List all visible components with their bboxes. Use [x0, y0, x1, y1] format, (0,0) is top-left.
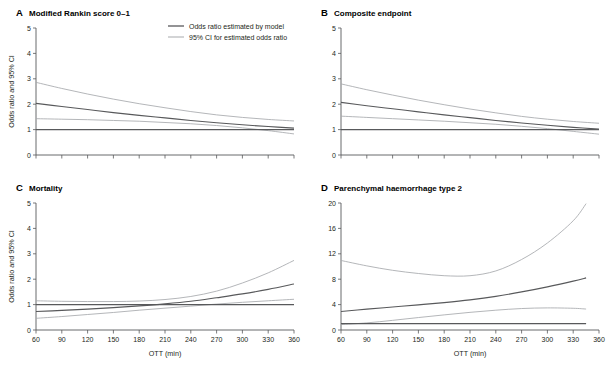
x-tick-label: 240: [490, 336, 502, 343]
y-tick-label: 4: [27, 225, 31, 232]
curve-ci: [341, 116, 599, 134]
x-tick-label: 270: [516, 336, 528, 343]
y-tick-label: 0: [332, 152, 336, 159]
panel-c: CMortality012345609012015018021024027030…: [7, 182, 300, 358]
y-tick-label: 5: [27, 25, 31, 32]
x-tick-label: 300: [237, 336, 249, 343]
panel-b: BComposite endpoint012345: [321, 7, 599, 159]
y-tick-label: 0: [27, 327, 31, 334]
panel-a: AModified Rankin score 0–1012345Odds rat…: [7, 7, 294, 159]
curve-main: [36, 284, 294, 311]
x-tick-label: 120: [387, 336, 399, 343]
curve-ci: [36, 260, 294, 301]
x-tick-label: 120: [82, 336, 94, 343]
curves: [341, 204, 586, 325]
curve-ci: [36, 299, 294, 318]
x-tick-label: 180: [438, 336, 450, 343]
x-tick-label: 330: [262, 336, 274, 343]
y-tick-label: 0: [332, 327, 336, 334]
x-axis-title: OTT (min): [454, 349, 487, 358]
panel-title: Parenchymal haemorrhage type 2: [334, 184, 463, 193]
x-tick-label: 210: [159, 336, 171, 343]
x-tick-label: 240: [185, 336, 197, 343]
legend-label-ci: 95% CI for estimated odds ratio: [189, 34, 287, 41]
y-tick-label: 2: [332, 101, 336, 108]
odds-ratio-figure: AModified Rankin score 0–1012345Odds rat…: [0, 0, 608, 367]
x-tick-label: 330: [567, 336, 579, 343]
curve-main: [36, 103, 294, 128]
curve-main: [341, 278, 586, 312]
x-tick-label: 90: [363, 336, 371, 343]
y-tick-label: 2: [27, 101, 31, 108]
y-tick-label: 5: [27, 200, 31, 207]
y-axis-title: Odds ratio and 95% CI: [7, 230, 16, 303]
x-tick-label: 150: [108, 336, 120, 343]
panel-letter: A: [16, 7, 23, 18]
x-tick-label: 270: [211, 336, 223, 343]
y-tick-label: 12: [328, 250, 336, 257]
x-tick-label: 90: [58, 336, 66, 343]
y-tick-label: 0: [27, 152, 31, 159]
y-tick-label: 3: [27, 250, 31, 257]
curve-main: [341, 102, 599, 129]
axes: [341, 203, 599, 330]
y-tick-label: 4: [27, 50, 31, 57]
x-tick-label: 60: [32, 336, 40, 343]
x-tick-label: 150: [413, 336, 425, 343]
panel-title: Mortality: [29, 184, 63, 193]
y-tick-label: 5: [332, 25, 336, 32]
curve-ci: [36, 82, 294, 121]
y-tick-label: 20: [328, 200, 336, 207]
y-tick-label: 3: [332, 75, 336, 82]
x-tick-label: 300: [542, 336, 554, 343]
curve-ci: [36, 119, 294, 134]
y-tick-label: 3: [27, 75, 31, 82]
x-tick-label: 210: [464, 336, 476, 343]
legend-label-model: Odds ratio estimated by model: [189, 23, 284, 31]
x-tick-label: 180: [133, 336, 145, 343]
y-tick-label: 2: [27, 276, 31, 283]
y-axis-title: Odds ratio and 95% CI: [7, 55, 16, 128]
y-tick-label: 4: [332, 50, 336, 57]
panel-title: Composite endpoint: [334, 9, 412, 18]
panel-letter: D: [321, 182, 328, 193]
curve-ci: [341, 204, 586, 277]
x-tick-label: 360: [593, 336, 605, 343]
x-tick-label: 360: [288, 336, 300, 343]
panel-letter: C: [16, 182, 23, 193]
curves: [36, 82, 294, 134]
panel-letter: B: [321, 7, 328, 18]
legend: Odds ratio estimated by model95% CI for …: [168, 23, 287, 41]
panel-d: DParenchymal haemorrhage type 2048121620…: [321, 182, 605, 358]
curve-ci: [341, 308, 586, 325]
y-tick-label: 1: [27, 126, 31, 133]
y-tick-label: 4: [332, 301, 336, 308]
y-tick-label: 16: [328, 225, 336, 232]
y-tick-label: 1: [27, 301, 31, 308]
curves: [341, 84, 599, 134]
x-axis-title: OTT (min): [149, 349, 182, 358]
axes: [36, 203, 294, 330]
axes: [341, 28, 599, 155]
x-tick-label: 60: [337, 336, 345, 343]
y-tick-label: 1: [332, 126, 336, 133]
panel-title: Modified Rankin score 0–1: [29, 9, 130, 18]
curves: [36, 260, 294, 318]
y-tick-label: 8: [332, 276, 336, 283]
